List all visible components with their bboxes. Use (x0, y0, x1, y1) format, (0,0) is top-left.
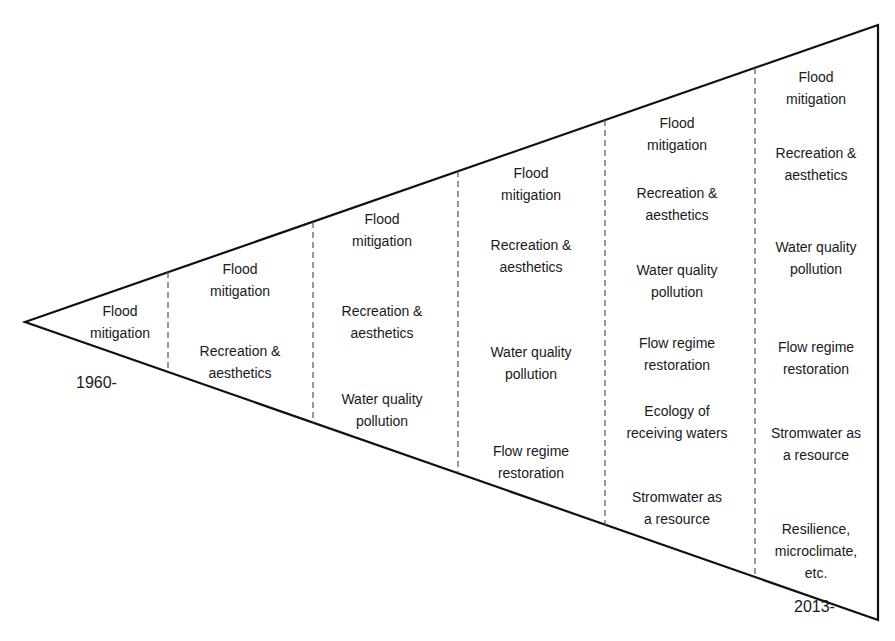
stage4-water-quality: Water quality pollution (490, 341, 571, 385)
stage4-flood-mitigation: Flood mitigation (501, 162, 561, 206)
start-year-label: 1960- (76, 374, 117, 392)
stage6-stormwater: Stromwater as a resource (771, 422, 861, 466)
stage5-flow-regime: Flow regime restoration (639, 332, 715, 376)
stage6-water-quality: Water quality pollution (775, 236, 856, 280)
stage4-flow-regime: Flow regime restoration (493, 440, 569, 484)
stage3-recreation: Recreation & aesthetics (342, 300, 423, 344)
stage2-recreation: Recreation & aesthetics (200, 340, 281, 384)
stage5-recreation: Recreation & aesthetics (637, 182, 718, 226)
stage6-recreation: Recreation & aesthetics (776, 142, 857, 186)
stage3-flood-mitigation: Flood mitigation (352, 208, 412, 252)
stage6-flood-mitigation: Flood mitigation (786, 66, 846, 110)
end-year-label: 2013- (794, 598, 835, 616)
stage2-flood-mitigation: Flood mitigation (210, 258, 270, 302)
stage4-recreation: Recreation & aesthetics (491, 234, 572, 278)
stage1-flood-mitigation: Flood mitigation (90, 300, 150, 344)
stage5-flood-mitigation: Flood mitigation (647, 112, 707, 156)
stage6-resilience: Resilience, microclimate, etc. (775, 518, 857, 584)
stage5-stormwater: Stromwater as a resource (632, 486, 722, 530)
stage5-water-quality: Water quality pollution (636, 259, 717, 303)
stage3-water-quality: Water quality pollution (341, 388, 422, 432)
stage6-flow-regime: Flow regime restoration (778, 336, 854, 380)
stage5-ecology: Ecology of receiving waters (626, 400, 727, 444)
